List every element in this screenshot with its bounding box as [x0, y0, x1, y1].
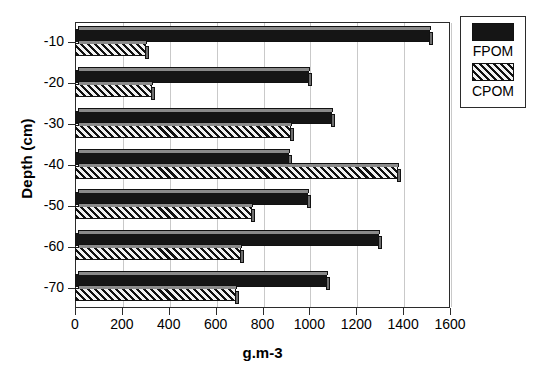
bar-cpom--40: [75, 166, 398, 179]
bar-top-face: [78, 203, 253, 207]
bar-top-face: [78, 285, 237, 289]
bar-end-cap: [326, 277, 330, 290]
x-axis-tick: [356, 308, 357, 315]
x-axis-title: g.m-3: [75, 344, 450, 361]
bar-cpom--30: [75, 125, 291, 138]
y-axis-tick: [68, 42, 75, 43]
bar-top-face: [78, 108, 333, 112]
bar-end-cap: [308, 73, 312, 86]
bar-end-cap: [378, 236, 382, 249]
legend-label-fpom: FPOM: [461, 42, 525, 60]
x-axis-tick: [169, 308, 170, 315]
x-axis-tick: [75, 308, 76, 315]
chart-legend: FPOM CPOM: [460, 16, 526, 108]
legend-swatch-fpom: [472, 23, 514, 41]
x-axis-tick: [216, 308, 217, 315]
x-axis-tick: [122, 308, 123, 315]
y-axis-tick: [68, 247, 75, 248]
bar-end-cap: [240, 250, 244, 263]
bar-end-cap: [251, 209, 255, 222]
figure-caption: [30, 360, 430, 370]
y-axis-tick: [68, 83, 75, 84]
bar-end-cap: [397, 169, 401, 182]
bar-top-face: [78, 189, 309, 193]
bar-cpom--20: [75, 84, 152, 97]
y-axis-tick: [68, 288, 75, 289]
bar-top-face: [78, 40, 147, 44]
bar-end-cap: [307, 195, 311, 208]
y-axis-tick-label: -60: [14, 238, 64, 254]
bar-top-face: [78, 230, 380, 234]
x-axis-tick: [263, 308, 264, 315]
bar-top-face: [78, 122, 292, 126]
bar-end-cap: [331, 114, 335, 127]
y-axis-tick-label: -50: [14, 197, 64, 213]
bar-end-cap: [235, 291, 239, 304]
y-axis-tick: [68, 206, 75, 207]
x-axis-tick: [450, 308, 451, 315]
legend-label-cpom: CPOM: [461, 82, 525, 100]
y-axis-tick: [68, 165, 75, 166]
y-axis-tick-label: -30: [14, 115, 64, 131]
bar-cpom--50: [75, 206, 252, 219]
bar-top-face: [78, 271, 328, 275]
gridline-x: [451, 23, 452, 307]
x-axis-tick-label: 1600: [420, 316, 480, 332]
y-axis-tick-label: -10: [14, 33, 64, 49]
bar-end-cap: [145, 46, 149, 59]
figure-root: Depth (cm) g.m-3 FPOM CPOM 0200400600800…: [0, 0, 535, 373]
bar-top-face: [78, 26, 431, 30]
x-axis-tick: [403, 308, 404, 315]
y-axis-tick-label: -40: [14, 156, 64, 172]
y-axis-tick: [68, 124, 75, 125]
bar-top-face: [78, 67, 310, 71]
bar-end-cap: [429, 32, 433, 45]
bar-top-face: [78, 163, 399, 167]
gridline-x: [404, 23, 405, 307]
y-axis-tick-label: -20: [14, 74, 64, 90]
legend-swatch-cpom: [472, 63, 514, 81]
bar-cpom--70: [75, 288, 236, 301]
bar-end-cap: [290, 128, 294, 141]
y-axis-tick-label: -70: [14, 279, 64, 295]
bar-end-cap: [151, 87, 155, 100]
bar-cpom--10: [75, 43, 146, 56]
bar-top-face: [78, 244, 242, 248]
bar-cpom--60: [75, 247, 241, 260]
bar-top-face: [78, 81, 153, 85]
x-axis-tick: [309, 308, 310, 315]
bar-top-face: [78, 149, 290, 153]
